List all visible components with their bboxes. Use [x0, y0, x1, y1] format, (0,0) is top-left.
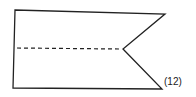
fold-line-dashed	[17, 48, 120, 49]
figure-number-label: (12)	[164, 76, 182, 87]
flag-outline	[13, 10, 165, 89]
